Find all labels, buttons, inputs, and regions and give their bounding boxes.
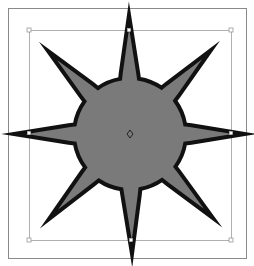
anchor-point-right[interactable] (230, 132, 233, 135)
handle-corner-bottom-left[interactable] (27, 238, 31, 242)
vector-artwork[interactable] (0, 0, 254, 266)
anchor-point-left[interactable] (28, 132, 31, 135)
star-shape[interactable] (14, 15, 245, 254)
handle-corner-bottom-right[interactable] (229, 238, 233, 242)
anchor-point-top[interactable] (128, 29, 131, 32)
handle-corner-top-left[interactable] (27, 28, 31, 32)
anchor-point-bottom[interactable] (130, 239, 133, 242)
drawing-canvas[interactable] (0, 0, 254, 266)
handle-corner-top-right[interactable] (229, 28, 233, 32)
